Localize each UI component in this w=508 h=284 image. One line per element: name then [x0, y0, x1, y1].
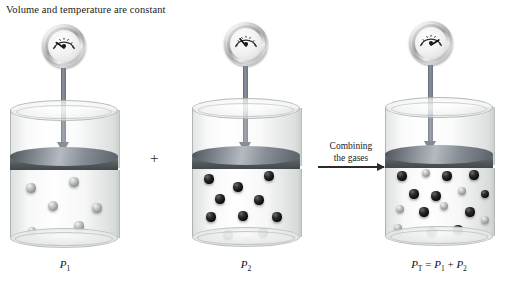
gas-particle-gray	[458, 187, 467, 196]
pressure-gauge-1	[42, 24, 86, 68]
gauge-face	[230, 28, 262, 60]
gauge-needle-hub	[62, 44, 65, 47]
gas-particle-black	[442, 171, 451, 180]
gas-particle-black	[238, 211, 247, 220]
piston-disk	[385, 145, 493, 164]
gas-particle-black	[409, 189, 418, 198]
gauge-needle-hub	[429, 41, 432, 44]
gas-particle-black	[481, 190, 490, 199]
gauge-face	[48, 30, 80, 62]
gas-particle-black	[254, 195, 263, 204]
gas-container-3	[385, 97, 493, 255]
pressure-gauge-3	[409, 21, 453, 65]
gas-particle-black	[397, 171, 406, 180]
gas-particle-black	[419, 207, 428, 216]
gas-particle-black	[204, 174, 213, 183]
gas-particle-black	[272, 212, 281, 221]
combining-label-line2: the gases	[318, 153, 384, 165]
gas-particle-gray	[440, 202, 449, 211]
container-1-label: P1	[35, 258, 95, 273]
pressure-gauge-2	[224, 22, 268, 66]
gas-particle-black	[469, 170, 478, 179]
gas-particle-gray	[396, 205, 405, 214]
gas-particle-black	[264, 171, 273, 180]
gas-particle-black	[465, 207, 474, 216]
plus-operator: +	[150, 151, 158, 166]
gas-particle-gray	[92, 203, 101, 212]
combining-label-line1: Combining	[318, 141, 384, 153]
diagram-canvas: Volume and temperature are constant	[0, 0, 508, 284]
container-rim	[385, 97, 493, 118]
right-arrow-icon	[318, 166, 384, 168]
gauge-face	[415, 27, 447, 59]
container-3-label: PT = P1 + P2	[379, 258, 499, 273]
combining-arrow: Combining the gases	[318, 141, 384, 168]
gas-particle-black	[206, 212, 215, 221]
diagram-caption: Volume and temperature are constant	[6, 4, 166, 15]
gas-particle-gray	[69, 177, 78, 186]
container-2-label: P2	[216, 258, 276, 273]
container-base	[10, 228, 118, 248]
gas-container-1	[10, 100, 118, 258]
gas-particle-gray	[422, 169, 431, 178]
container-base	[192, 227, 300, 247]
piston-disk	[192, 146, 300, 165]
container-rim	[192, 98, 300, 119]
gas-particle-black	[431, 191, 440, 200]
gas-particle-black	[233, 182, 242, 191]
gas-particle-gray	[481, 216, 490, 225]
piston-disk	[10, 147, 118, 166]
container-rim	[10, 100, 118, 121]
gauge-needle-hub	[244, 42, 247, 45]
container-base	[385, 226, 493, 246]
gas-particle-gray	[48, 201, 58, 211]
gas-container-2	[192, 98, 300, 256]
gas-particle-gray	[26, 183, 35, 192]
gas-particle-black	[215, 194, 224, 203]
